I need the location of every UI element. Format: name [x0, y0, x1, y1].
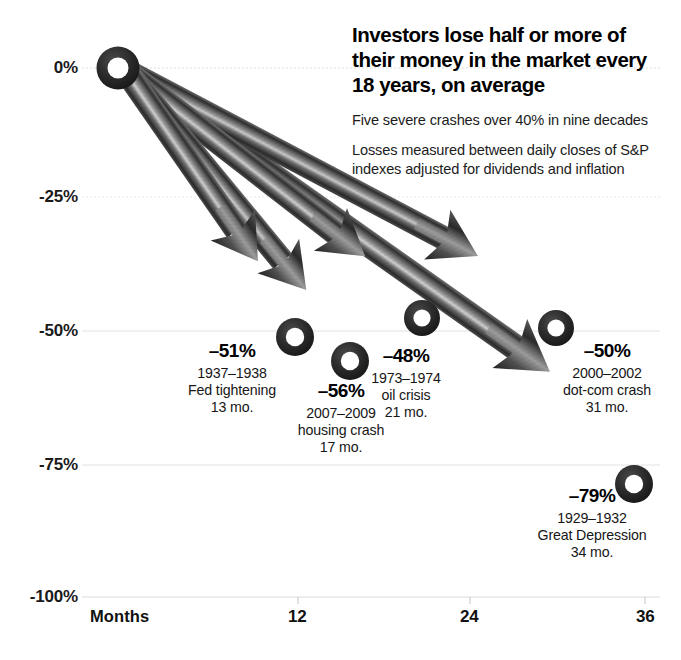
- chart-title: Investors lose half or more of their mon…: [352, 22, 670, 98]
- chart-canvas: 0% -25% -50% -75% -100% Months 12 24 36 …: [0, 0, 681, 660]
- origin-marker: [97, 47, 140, 90]
- y-axis-label-25: -25%: [0, 187, 78, 207]
- chart-note: Losses measured between daily closes of …: [352, 141, 670, 180]
- annotation-cause: Great Depression: [524, 527, 660, 544]
- annotation-duration: 17 mo.: [276, 439, 406, 456]
- y-axis-label-50: -50%: [0, 321, 78, 341]
- annotation-duration: 21 mo.: [363, 404, 449, 421]
- endpoint-marker-oil-crisis: [404, 300, 440, 336]
- y-axis-label-0: 0%: [0, 58, 78, 78]
- x-axis-label-24: 24: [460, 607, 479, 627]
- annotation-cause: housing crash: [276, 422, 406, 439]
- x-axis-ticks: [298, 597, 645, 604]
- annotation-percent: –51%: [178, 340, 286, 363]
- annotation-great-depression: –79% 1929–1932 Great Depression 34 mo.: [524, 485, 660, 561]
- annotation-years: 2000–2002: [542, 365, 672, 382]
- annotation-percent: –50%: [542, 340, 672, 363]
- x-axis-label-months: Months: [90, 607, 149, 626]
- annotation-years: 1937–1938: [178, 365, 286, 382]
- annotation-cause: dot-com crash: [542, 382, 672, 399]
- annotation-dotcom-crash: –50% 2000–2002 dot-com crash 31 mo.: [542, 340, 672, 416]
- annotation-cause: Fed tightening: [178, 382, 286, 399]
- annotation-oil-crisis: –48% 1973–1974 oil crisis 21 mo.: [363, 345, 449, 421]
- headline-block: Investors lose half or more of their mon…: [352, 22, 670, 180]
- annotation-duration: 31 mo.: [542, 399, 672, 416]
- y-axis-label-100: -100%: [0, 587, 78, 607]
- annotation-fed-tightening: –51% 1937–1938 Fed tightening 13 mo.: [178, 340, 286, 416]
- x-axis-label-36: 36: [636, 607, 655, 627]
- annotation-years: 1973–1974: [363, 370, 449, 387]
- y-axis-label-75: -75%: [0, 455, 78, 475]
- annotation-cause: oil crisis: [363, 387, 449, 404]
- annotation-percent: –79%: [524, 485, 660, 508]
- annotation-percent: –48%: [363, 345, 449, 368]
- annotation-duration: 34 mo.: [524, 544, 660, 561]
- chart-subtitle: Five severe crashes over 40% in nine dec…: [352, 111, 670, 130]
- annotation-duration: 13 mo.: [178, 399, 286, 416]
- x-axis-label-12: 12: [288, 607, 307, 627]
- annotation-years: 1929–1932: [524, 510, 660, 527]
